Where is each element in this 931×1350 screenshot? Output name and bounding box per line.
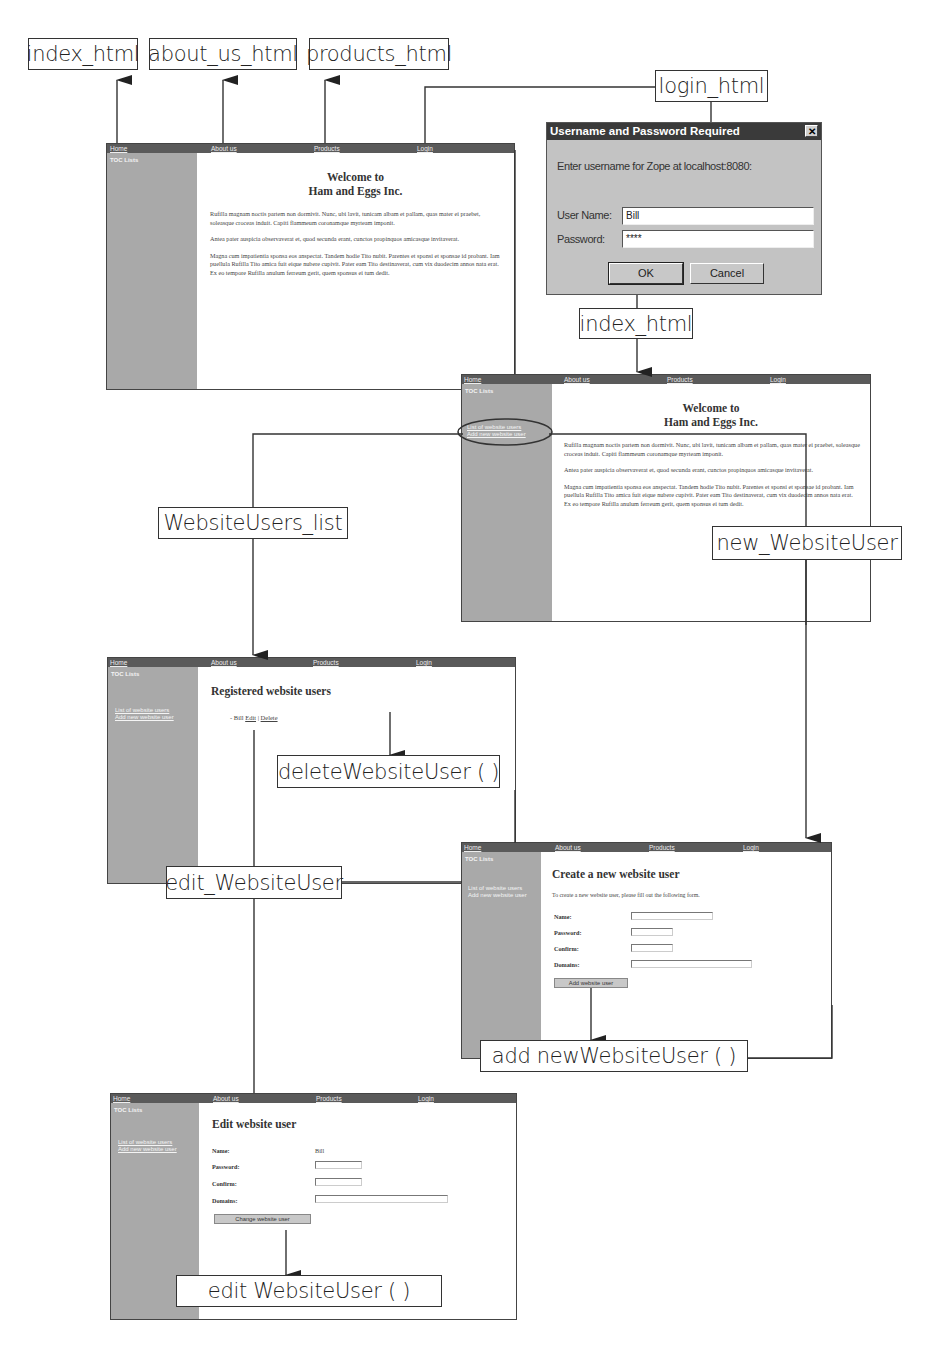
nav-about-us[interactable]: About us [211, 144, 237, 153]
confirm-input[interactable] [315, 1178, 362, 1186]
login-dialog: Username and Password Required ✕ Enter u… [546, 122, 822, 295]
nav-products[interactable]: Products [314, 144, 340, 153]
delete-user-link[interactable]: Delete [261, 714, 278, 721]
nav-home[interactable]: Home [464, 843, 481, 852]
nav-login[interactable]: Login [416, 658, 432, 667]
navbar: Home About us Products Login [108, 658, 515, 667]
navbar: Home About us Products Login [462, 375, 870, 384]
navbar: Home About us Products Login [462, 843, 831, 852]
nav-products[interactable]: Products [316, 1094, 342, 1103]
name-label: Name: [554, 913, 572, 920]
page-title: Edit website user [212, 1118, 296, 1130]
sidebar-link-list-users[interactable]: List of website users [467, 424, 526, 431]
domains-input[interactable] [631, 960, 752, 968]
sidebar-link-list-users[interactable]: List of website users [118, 1139, 177, 1146]
toc-lists-heading: TOC Lists [110, 157, 138, 163]
nav-about-us[interactable]: About us [564, 375, 590, 384]
nav-home[interactable]: Home [113, 1094, 130, 1103]
nav-about-us[interactable]: About us [555, 843, 581, 852]
nav-home[interactable]: Home [464, 375, 481, 384]
nav-products[interactable]: Products [649, 843, 675, 852]
sidebar: TOC Lists List of website users Add new … [462, 384, 552, 621]
domains-label: Domains: [212, 1197, 237, 1204]
confirm-label: Confirm: [554, 945, 579, 952]
create-user-content: Create a new website user To create a ne… [541, 852, 831, 1058]
password-label: Password: [212, 1163, 240, 1170]
confirm-input[interactable] [631, 944, 673, 952]
node-new-websiteuser: new_WebsiteUser [712, 526, 902, 560]
bullet: - [230, 714, 232, 721]
password-input[interactable]: **** [622, 230, 814, 248]
nav-login[interactable]: Login [743, 843, 759, 852]
sidebar-link-list-users[interactable]: List of website users [115, 707, 174, 714]
home-content: Welcome to Ham and Eggs Inc. Rufilla mag… [197, 153, 514, 389]
home-paragraph-3: Magna cum impatientia sponsa eos anspect… [210, 252, 504, 278]
change-website-user-button[interactable]: Change website user [214, 1214, 311, 1224]
toc-lists-heading: TOC Lists [111, 671, 139, 677]
username-label: User Name: [557, 209, 612, 221]
nav-about-us[interactable]: About us [213, 1094, 239, 1103]
home-paragraph-2: Antea pater auspicia observaverat et, qu… [210, 235, 504, 244]
navbar: Home About us Products Login [111, 1094, 516, 1103]
close-icon[interactable]: ✕ [805, 125, 818, 137]
nav-login[interactable]: Login [418, 1094, 434, 1103]
home-page-logged-in-screenshot: Home About us Products Login TOC Lists L… [461, 374, 871, 622]
toc-lists-heading: TOC Lists [114, 1107, 142, 1113]
cancel-button[interactable]: Cancel [690, 263, 764, 284]
create-user-page-screenshot: Home About us Products Login TOC Lists L… [461, 842, 832, 1059]
node-products-html: products_html [309, 38, 449, 70]
nav-login[interactable]: Login [417, 144, 433, 153]
node-websiteusers-list: WebsiteUsers_list [158, 507, 348, 539]
nav-products[interactable]: Products [313, 658, 339, 667]
nav-products[interactable]: Products [667, 375, 693, 384]
name-input[interactable] [631, 912, 713, 920]
welcome-line-2: Ham and Eggs Inc. [197, 184, 514, 198]
node-index-html-after-login: index_html [579, 308, 693, 339]
nav-login[interactable]: Login [770, 375, 786, 384]
welcome-line-2: Ham and Eggs Inc. [552, 415, 870, 429]
form-intro: To create a new website user, please fil… [552, 892, 700, 898]
ok-button[interactable]: OK [609, 263, 683, 284]
node-delete-websiteuser: deleteWebsiteUser ( ) [277, 755, 500, 788]
sidebar: TOC Lists List of website users Add new … [108, 667, 198, 883]
dialog-titlebar: Username and Password Required ✕ [547, 123, 821, 140]
node-edit-websiteuser: edit_WebsiteUser [166, 866, 342, 899]
sidebar-link-list-users[interactable]: List of website users [468, 885, 527, 892]
home-content: Welcome to Ham and Eggs Inc. Rufilla mag… [552, 384, 870, 621]
welcome-line-1: Welcome to [552, 401, 870, 415]
password-label: Password: [557, 233, 605, 245]
sidebar-link-add-user[interactable]: Add new website user [118, 1146, 177, 1153]
home-paragraph-2: Antea pater auspicia observaverat et, qu… [564, 466, 860, 475]
password-input[interactable] [631, 928, 673, 936]
node-index-html: index_html [28, 38, 138, 70]
home-paragraph-3: Magna cum impatientia sponsa eos anspect… [564, 483, 860, 509]
dialog-prompt: Enter username for Zope at localhost:808… [557, 160, 752, 172]
node-about-us-html: about_us_html [149, 38, 297, 70]
sidebar-link-add-user[interactable]: Add new website user [115, 714, 174, 721]
sidebar-link-add-user[interactable]: Add new website user [468, 892, 527, 899]
toc-lists-heading: TOC Lists [465, 856, 493, 862]
confirm-label: Confirm: [212, 1180, 237, 1187]
node-login-html: login_html [655, 70, 768, 102]
sidebar-link-add-user[interactable]: Add new website user [467, 431, 526, 438]
navbar: Home About us Products Login [107, 144, 514, 153]
nav-home[interactable]: Home [110, 144, 127, 153]
sidebar: TOC Lists [107, 153, 197, 389]
name-label: Name: [212, 1147, 230, 1154]
node-add-newwebsiteuser: add newWebsiteUser ( ) [480, 1040, 748, 1072]
name-value: Bill [315, 1147, 324, 1154]
password-input[interactable] [315, 1161, 362, 1169]
toc-lists-heading: TOC Lists [465, 388, 493, 394]
user-list-item: - Bill Edit | Delete [230, 714, 278, 721]
username-input[interactable]: Bill [622, 207, 814, 225]
node-edit-websiteuser-action: edit WebsiteUser ( ) [176, 1275, 442, 1307]
welcome-line-1: Welcome to [197, 170, 514, 184]
edit-user-link[interactable]: Edit [245, 714, 256, 721]
nav-home[interactable]: Home [110, 658, 127, 667]
user-name: Bill [234, 714, 244, 721]
add-website-user-button[interactable]: Add website user [554, 978, 628, 988]
domains-input[interactable] [315, 1195, 448, 1203]
sidebar: TOC Lists List of website users Add new … [462, 852, 541, 1058]
home-paragraph-1: Rufilla magnam noctis partem non dormivi… [564, 441, 860, 458]
nav-about-us[interactable]: About us [211, 658, 237, 667]
